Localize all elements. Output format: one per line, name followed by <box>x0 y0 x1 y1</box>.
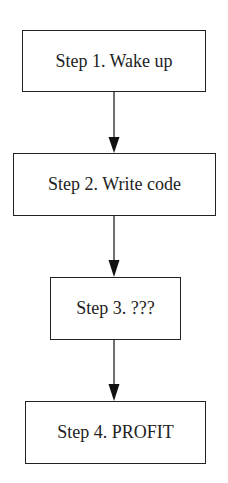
step-4-label: Step 4. PROFIT <box>57 422 174 443</box>
arrow-step3-to-step4 <box>109 340 120 401</box>
step-3-label: Step 3. ??? <box>76 298 154 319</box>
step-3-box: Step 3. ??? <box>50 277 181 340</box>
step-2-box: Step 2. Write code <box>13 153 216 216</box>
step-1-box: Step 1. Wake up <box>22 30 206 92</box>
step-2-label: Step 2. Write code <box>48 174 181 195</box>
arrow-step1-to-step2 <box>109 91 120 153</box>
arrow-step2-to-step3 <box>109 215 120 277</box>
step-4-box: Step 4. PROFIT <box>25 401 206 464</box>
step-1-label: Step 1. Wake up <box>55 51 172 72</box>
